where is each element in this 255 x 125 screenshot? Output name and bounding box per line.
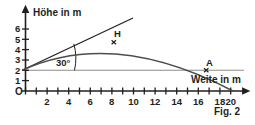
figure-caption: Fig. 2 [214,107,240,117]
launch-tangent-line [22,18,133,70]
y-tick-label-2: 2 [15,66,20,76]
y-tick-label-1: 1 [15,76,20,86]
trajectory-curve [22,54,233,91]
x-tick-label-16: 16 [193,97,204,107]
x-tick-label-14: 14 [171,97,182,107]
y-tick-label-5: 5 [15,35,20,45]
x-tick-label-6: 6 [88,97,93,107]
y-axis-title: Höhe in m [33,8,81,18]
y-tick-label-3: 3 [15,55,20,65]
y-tick-label-6: 6 [15,24,20,34]
angle-label: 30° [56,58,70,68]
x-tick-label-2: 2 [44,97,49,107]
x-axis-title: Weite in m [191,75,241,85]
apex-point-label: H [114,29,121,39]
x-tick-label-10: 10 [128,97,139,107]
y-tick-label-4: 4 [15,45,20,55]
apex-marker-icon [112,40,116,44]
x-tick-label-12: 12 [150,97,161,107]
x-tick-label-4: 4 [66,97,71,107]
figure-container: Höhe in m Weite in m O 6 5 4 3 2 1 2 4 6… [0,0,255,125]
angle-arc [74,44,76,71]
landing-point-label: A [206,58,213,68]
origin-label: O [15,87,23,97]
x-tick-label-8: 8 [109,97,114,107]
